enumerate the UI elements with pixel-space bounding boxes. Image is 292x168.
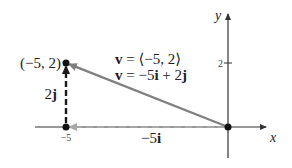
unit-j: j — [51, 86, 57, 102]
i-coefficient: −5 — [138, 67, 154, 83]
unit-i: i — [157, 130, 161, 146]
y-tick-label: 2 — [218, 58, 223, 69]
component-value: ⟨−5, 2⟩ — [138, 51, 181, 67]
coef: 2 — [45, 86, 53, 102]
vertical-component-label: 2j — [45, 86, 58, 102]
vector-diagram: 2 −5 x y (−5, 2) v = ⟨−5, 2⟩ v = −5i + 2… — [0, 0, 292, 168]
component-corner-point — [63, 124, 70, 131]
equals: = — [123, 67, 139, 83]
j-coefficient: 2 — [175, 67, 183, 83]
x-axis-label: x — [269, 130, 277, 145]
vector-component-form: v = ⟨−5, 2⟩ — [115, 51, 181, 67]
point-label: (−5, 2) — [20, 55, 61, 72]
horizontal-component-label: −5i — [141, 130, 161, 146]
x-tick-label: −5 — [61, 132, 72, 143]
y-axis-label: y — [213, 8, 222, 23]
vector-ij-form: v = −5i + 2j — [115, 67, 187, 83]
equals: = — [123, 51, 139, 67]
unit-j: j — [181, 67, 187, 83]
terminal-point — [63, 60, 70, 67]
coef: −5 — [141, 130, 157, 146]
origin-point — [225, 124, 232, 131]
plus: + — [159, 67, 175, 83]
